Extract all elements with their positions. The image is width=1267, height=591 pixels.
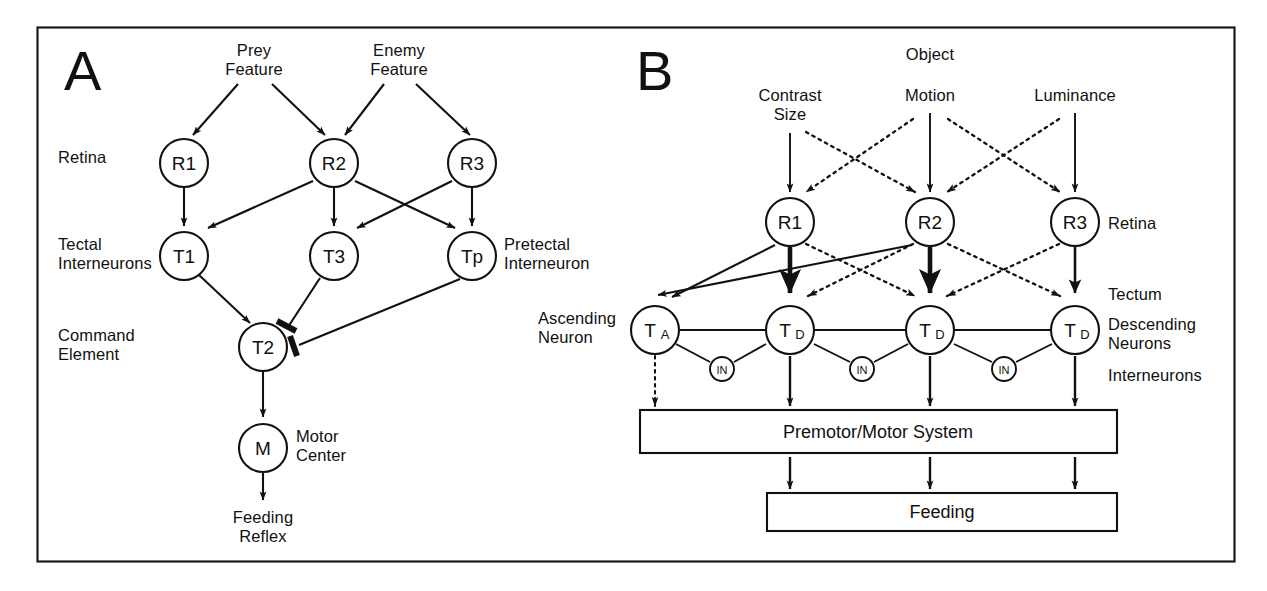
panel-a-label-command-line2: Element bbox=[58, 345, 120, 363]
contrast-size-label-line2: Size bbox=[774, 105, 807, 123]
node-b-td2: T D bbox=[906, 306, 954, 354]
ascending-neuron-label-line2: Neuron bbox=[538, 328, 593, 346]
node-b-in3: IN bbox=[992, 357, 1016, 381]
node-b-r3-label: R3 bbox=[1063, 212, 1087, 233]
node-a-t1-label: T1 bbox=[173, 246, 195, 267]
premotor-motor-system-label: Premotor/Motor System bbox=[783, 422, 973, 442]
node-a-t3-label: T3 bbox=[323, 246, 345, 267]
feeding-label: Feeding bbox=[909, 502, 974, 522]
panel-a-label-tectal-line1: Tectal bbox=[58, 235, 102, 253]
panel-b-label-retina: Retina bbox=[1108, 214, 1157, 232]
panel-a-letter: A bbox=[64, 39, 102, 102]
feeding-reflex-label-line2: Reflex bbox=[239, 527, 287, 545]
panel-a-label-retina: Retina bbox=[58, 148, 107, 166]
node-b-td3: T D bbox=[1051, 306, 1099, 354]
node-b-td2-label: T bbox=[919, 320, 931, 341]
node-a-t2-label: T2 bbox=[252, 337, 274, 358]
neural-circuit-diagram: A Prey Feature Enemy Feature Retina Tect… bbox=[0, 0, 1267, 591]
node-a-r2-label: R2 bbox=[322, 153, 346, 174]
node-a-r1-label: R1 bbox=[172, 153, 196, 174]
enemy-feature-label-line1: Enemy bbox=[373, 41, 426, 59]
node-a-m: M bbox=[239, 424, 287, 472]
panel-b-label-descending-line2: Neurons bbox=[1108, 334, 1171, 352]
premotor-motor-system-box: Premotor/Motor System bbox=[640, 410, 1117, 453]
node-b-r1-label: R1 bbox=[778, 212, 802, 233]
panel-b-label-interneurons: Interneurons bbox=[1108, 366, 1202, 384]
node-b-in2: IN bbox=[850, 357, 874, 381]
motor-center-label-line1: Motor bbox=[296, 427, 339, 445]
node-b-td3-subscript: D bbox=[1080, 327, 1089, 342]
node-b-r3: R3 bbox=[1051, 198, 1099, 246]
enemy-feature-label-line2: Feature bbox=[370, 60, 428, 78]
node-a-r1: R1 bbox=[160, 139, 208, 187]
node-a-r3: R3 bbox=[448, 139, 496, 187]
node-b-td1-subscript: D bbox=[795, 327, 804, 342]
panel-b-label-descending-line1: Descending bbox=[1108, 315, 1196, 333]
node-b-td3-label: T bbox=[1064, 320, 1076, 341]
node-b-r1: R1 bbox=[766, 198, 814, 246]
node-a-tp-label: Tp bbox=[461, 246, 483, 267]
node-a-r3-label: R3 bbox=[460, 153, 484, 174]
node-b-td1-label: T bbox=[779, 320, 791, 341]
node-b-td1: T D bbox=[766, 306, 814, 354]
node-b-td2-subscript: D bbox=[935, 327, 944, 342]
node-b-in1: IN bbox=[710, 357, 734, 381]
node-a-m-label: M bbox=[255, 438, 271, 459]
feeding-box: Feeding bbox=[767, 493, 1117, 531]
prey-feature-label-line2: Feature bbox=[225, 60, 283, 78]
panel-a-label-tectal-line2: Interneurons bbox=[58, 254, 152, 272]
node-b-r2-label: R2 bbox=[918, 212, 942, 233]
motion-label: Motion bbox=[905, 86, 955, 104]
node-b-ta: T A bbox=[631, 306, 679, 354]
panel-a-input-enemy: Enemy Feature bbox=[370, 41, 428, 78]
pretectal-label-line1: Pretectal bbox=[504, 235, 570, 253]
contrast-size-label-line1: Contrast bbox=[758, 86, 821, 104]
node-b-in1-label: IN bbox=[717, 364, 728, 376]
node-b-in3-label: IN bbox=[999, 364, 1010, 376]
node-b-ta-label: T bbox=[644, 320, 656, 341]
node-b-ta-subscript: A bbox=[661, 327, 670, 342]
node-b-r2: R2 bbox=[906, 198, 954, 246]
pretectal-label-line2: Interneuron bbox=[504, 254, 590, 272]
luminance-label: Luminance bbox=[1034, 86, 1116, 104]
feeding-reflex-label-line1: Feeding bbox=[233, 508, 293, 526]
node-a-r2: R2 bbox=[310, 139, 358, 187]
panel-a-label-command-line1: Command bbox=[58, 326, 135, 344]
node-a-tp: Tp bbox=[448, 232, 496, 280]
panel-b-letter: B bbox=[636, 39, 673, 102]
node-b-in2-label: IN bbox=[857, 364, 868, 376]
node-a-t1: T1 bbox=[160, 232, 208, 280]
panel-b-label-tectum: Tectum bbox=[1108, 285, 1162, 303]
node-a-t2: T2 bbox=[239, 323, 287, 371]
prey-feature-label-line1: Prey bbox=[237, 41, 272, 59]
node-a-t3: T3 bbox=[310, 232, 358, 280]
ascending-neuron-label-line1: Ascending bbox=[538, 309, 616, 327]
figure-root: A Prey Feature Enemy Feature Retina Tect… bbox=[0, 0, 1267, 591]
motor-center-label-line2: Center bbox=[296, 446, 347, 464]
object-label: Object bbox=[906, 45, 955, 63]
